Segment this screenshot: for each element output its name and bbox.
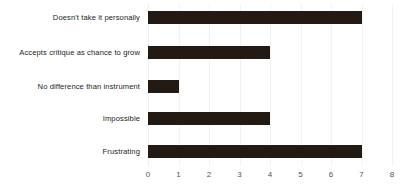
gridline <box>331 4 332 166</box>
x-tick-label: 3 <box>230 170 250 179</box>
x-tick-label: 0 <box>138 170 158 179</box>
gridline <box>392 4 393 166</box>
x-tick-label: 4 <box>260 170 280 179</box>
bar <box>148 11 362 24</box>
gridline <box>301 4 302 166</box>
x-tick-label: 2 <box>199 170 219 179</box>
gridline <box>362 4 363 166</box>
x-tick-label: 7 <box>352 170 372 179</box>
x-axis: 012345678 <box>148 168 392 188</box>
bar <box>148 80 179 93</box>
category-label-column: Doesn't take it personally Accepts criti… <box>0 0 144 166</box>
bar <box>148 46 270 59</box>
x-tick-label: 6 <box>321 170 341 179</box>
category-label: Accepts critique as chance to grow <box>0 48 140 57</box>
category-label: Frustrating <box>0 147 140 156</box>
bar-chart: Doesn't take it personally Accepts criti… <box>0 0 404 190</box>
category-label: Doesn't take it personally <box>0 13 140 22</box>
bar <box>148 112 270 125</box>
x-tick-label: 5 <box>291 170 311 179</box>
gridline <box>270 4 271 166</box>
gridline <box>209 4 210 166</box>
category-label: No difference than instrument <box>0 82 140 91</box>
gridline <box>179 4 180 166</box>
x-tick-label: 8 <box>382 170 402 179</box>
gridline <box>240 4 241 166</box>
category-label: Impossible <box>0 114 140 123</box>
x-tick-label: 1 <box>169 170 189 179</box>
bar <box>148 145 362 158</box>
plot-area <box>148 4 392 166</box>
